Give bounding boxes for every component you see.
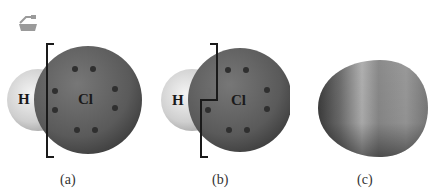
caption-a: (a) (60, 172, 76, 188)
panel-b: H Cl (b) (150, 0, 290, 196)
panel-c: (c) (290, 0, 435, 196)
hcl-model-b (150, 0, 290, 196)
atom-label-h: H (172, 92, 184, 109)
electron-density-surface (290, 0, 435, 196)
caption-b: (b) (212, 172, 228, 188)
atom-label-cl: Cl (78, 91, 93, 108)
panel-a: H Cl (a) (0, 0, 150, 196)
atom-label-cl: Cl (231, 92, 246, 109)
caption-c: (c) (357, 172, 373, 188)
atom-label-h: H (18, 91, 30, 108)
